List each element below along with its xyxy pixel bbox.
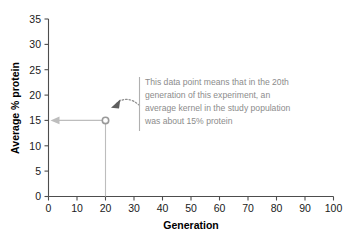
y-tick-label-5: 5 <box>35 165 41 177</box>
y-tick-label-20: 20 <box>29 89 41 101</box>
x-axis-tick-labels: 0 10 20 30 40 50 60 70 80 90 100 <box>46 202 343 214</box>
callout-arrowhead-icon <box>111 99 120 108</box>
x-tick-label-30: 30 <box>128 202 140 214</box>
x-tick-label-20: 20 <box>100 202 112 214</box>
y-tick-label-0: 0 <box>35 190 41 202</box>
x-tick-label-50: 50 <box>185 202 197 214</box>
x-tick-label-70: 70 <box>242 202 254 214</box>
annotation-line-1: This data point means that in the 20th <box>145 77 289 87</box>
x-tick-label-60: 60 <box>214 202 226 214</box>
data-point-marker[interactable] <box>102 117 108 123</box>
x-tick-label-10: 10 <box>71 202 83 214</box>
chart-screenshot: 35 30 25 20 15 10 5 0 Average % protein <box>0 0 350 238</box>
x-axis-title: Generation <box>163 219 218 231</box>
y-tick-label-30: 30 <box>29 38 41 50</box>
y-axis-ticks <box>45 19 49 197</box>
x-tick-label-0: 0 <box>46 202 52 214</box>
callout-annotation-text: This data point means that in the 20th g… <box>144 77 290 126</box>
annotation-line-2: generation of this experiment, an <box>145 90 270 100</box>
y-axis-title: Average % protein <box>9 62 21 154</box>
protein-generation-scatter-chart: 35 30 25 20 15 10 5 0 Average % protein <box>0 0 350 238</box>
y-tick-label-35: 35 <box>29 13 41 25</box>
y-tick-label-10: 10 <box>29 140 41 152</box>
y-tick-label-15: 15 <box>29 114 41 126</box>
x-axis-ticks <box>49 197 334 201</box>
horizontal-guide-arrowhead-icon <box>51 117 60 125</box>
annotation-line-4: was about 15% protein <box>144 116 233 126</box>
x-tick-label-100: 100 <box>325 202 343 214</box>
x-tick-label-40: 40 <box>157 202 169 214</box>
x-tick-label-90: 90 <box>299 202 311 214</box>
y-tick-label-25: 25 <box>29 64 41 76</box>
y-axis-tick-labels: 35 30 25 20 15 10 5 0 <box>29 13 41 203</box>
x-tick-label-80: 80 <box>271 202 283 214</box>
annotation-line-3: average kernel in the study population <box>145 103 290 113</box>
